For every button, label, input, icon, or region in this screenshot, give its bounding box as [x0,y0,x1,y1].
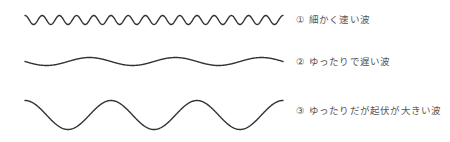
slow-large-amplitude-wave [25,101,283,130]
number-marker-1: ① [296,14,305,25]
number-marker-3: ③ [296,105,305,116]
fast-fine-wave [25,16,283,25]
wave-label-3: ③ゆったりだが起伏が大きい波 [296,105,441,117]
wave-label-text-1: 細かく速い波 [309,14,370,25]
wave-label-text-3: ゆったりだが起伏が大きい波 [309,105,442,116]
number-marker-2: ② [296,56,305,67]
wave-diagram [0,0,450,142]
wave-label-2: ②ゆったりで遅い波 [296,56,390,68]
wave-label-1: ①細かく速い波 [296,14,370,26]
wave-label-text-2: ゆったりで遅い波 [309,56,391,67]
slow-gentle-wave [25,58,283,66]
